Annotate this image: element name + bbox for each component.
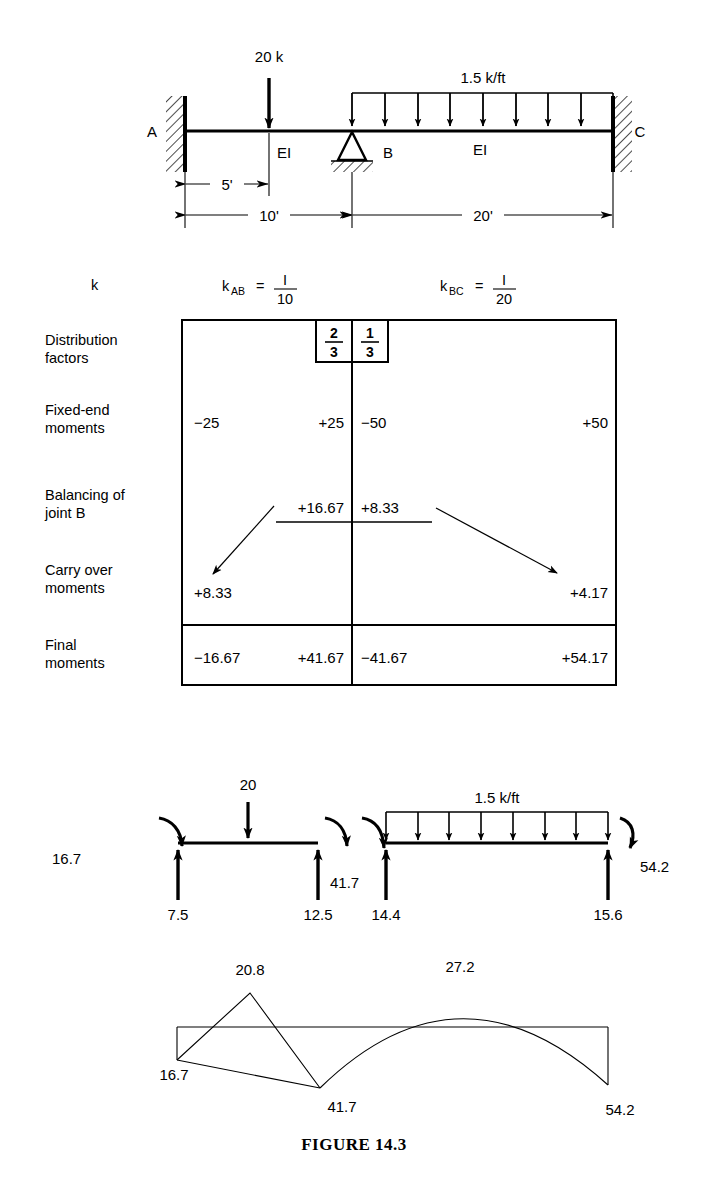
carryover-arrows xyxy=(213,506,557,574)
beam-diagram: 20 k 1.5 k/ft A B C EI EI xyxy=(147,48,646,228)
k-ab-subscript: AB xyxy=(231,285,245,297)
free-body-diagram-left: 20 16.7 41.7 7.5 12.5 xyxy=(52,776,359,923)
row-label-balancing-1: Balancing of xyxy=(45,487,126,503)
bmd-label-peak-left: 20.8 xyxy=(235,961,264,978)
fbd-right-reaction-c-label: 15.6 xyxy=(593,906,622,923)
fbd-left-moment-arrow-right xyxy=(325,818,347,846)
bmd-label-trough-mid: 41.7 xyxy=(327,1098,356,1115)
dimension-10ft: 10' xyxy=(186,206,351,224)
fbd-right-reaction-b-label: 14.4 xyxy=(371,906,400,923)
df-right-numerator: 1 xyxy=(366,325,374,341)
k-bc-equals: = xyxy=(475,278,483,294)
stiffness-row: k k AB = I 10 k BC = I 20 xyxy=(91,272,516,307)
row-label-final-1: Final xyxy=(45,637,76,653)
moment-distribution-table: 2 3 1 3 Distribution factors Fixed-end m… xyxy=(44,320,616,685)
df-left-denominator: 3 xyxy=(330,344,338,360)
dim-5ft-label: 5' xyxy=(221,176,232,193)
k-bc-name: k xyxy=(440,278,448,294)
fbd-left-point-load-label: 20 xyxy=(240,776,257,793)
fem-value-cb: +50 xyxy=(583,414,608,431)
carryover-value-ab: +8.33 xyxy=(194,584,232,601)
free-body-diagram-right: 1.5 k/ft 54.2 14.4 15.6 xyxy=(362,789,669,923)
ei-label-left: EI xyxy=(277,144,291,161)
final-value-bc: −41.67 xyxy=(361,649,407,666)
balancing-value-ba: +16.67 xyxy=(298,499,344,516)
fbd-right-load-label: 1.5 k/ft xyxy=(474,789,520,806)
fem-values: −25 +25 −50 +50 xyxy=(194,414,608,431)
fem-value-ab: −25 xyxy=(194,414,219,431)
k-ab-denominator: 10 xyxy=(277,291,293,307)
k-bc-subscript: BC xyxy=(449,285,464,297)
final-value-ab: −16.67 xyxy=(194,649,240,666)
fbd-right-moment-arrow-right xyxy=(620,818,633,848)
point-load-label: 20 k xyxy=(255,48,284,65)
final-value-cb: +54.17 xyxy=(562,649,608,666)
stiffness-k-bc: k BC = I 20 xyxy=(440,272,516,307)
row-label-fem-2: moments xyxy=(45,420,105,436)
df-right-denominator: 3 xyxy=(366,344,374,360)
node-label-c: C xyxy=(635,123,646,140)
dimension-20ft: 20' xyxy=(353,206,612,224)
dimension-5ft: 5' xyxy=(186,175,268,193)
node-label-a: A xyxy=(147,123,157,140)
distribution-factor-boxes: 2 3 1 3 xyxy=(316,320,388,362)
distributed-load-bc xyxy=(352,93,613,128)
row-label-carryover-1: Carry over xyxy=(45,562,113,578)
row-label-balancing-2: joint B xyxy=(44,505,85,521)
carryover-values: +8.33 +4.17 xyxy=(194,584,608,601)
fem-value-ba: +25 xyxy=(319,414,344,431)
node-label-b: B xyxy=(383,144,393,161)
fbd-left-moment-label: 16.7 xyxy=(52,850,81,867)
stiffness-k-ab: k AB = I 10 xyxy=(222,272,297,307)
k-bc-numerator: I xyxy=(502,272,506,288)
fbd-left-reaction-b-label: 12.5 xyxy=(303,906,332,923)
row-label-distribution-2: factors xyxy=(45,350,89,366)
bmd-span-bc-curve xyxy=(320,1019,608,1088)
final-value-ba: +41.67 xyxy=(298,649,344,666)
bending-moment-diagram: 16.7 20.8 41.7 27.2 54.2 xyxy=(159,958,634,1118)
pin-support-b xyxy=(331,132,373,172)
carryover-arrow-right xyxy=(436,508,557,573)
fbd-right-moment-right-label: 54.2 xyxy=(640,858,669,875)
bmd-label-peak-right: 27.2 xyxy=(445,958,474,975)
fbd-left-moment-right-label: 41.7 xyxy=(330,874,359,891)
table-outer-border xyxy=(182,320,616,685)
fem-value-bc: −50 xyxy=(361,414,386,431)
carryover-arrow-left xyxy=(213,506,274,574)
figure-14-3: 20 k 1.5 k/ft A B C EI EI xyxy=(0,0,709,1193)
k-ab-name: k xyxy=(222,278,230,294)
bmd-label-right-end: 54.2 xyxy=(605,1101,634,1118)
ei-label-right: EI xyxy=(473,141,487,158)
distributed-load-label: 1.5 k/ft xyxy=(460,69,506,86)
row-label-fem-1: Fixed-end xyxy=(45,402,109,418)
k-bc-denominator: 20 xyxy=(496,291,512,307)
dim-10ft-label: 10' xyxy=(259,207,279,224)
carryover-value-cb: +4.17 xyxy=(570,584,608,601)
row-label-carryover-2: moments xyxy=(45,580,105,596)
balancing-value-bc: +8.33 xyxy=(361,499,399,516)
fixed-support-c xyxy=(613,96,632,172)
figure-caption: FIGURE 14.3 xyxy=(301,1135,407,1154)
figure-canvas: 20 k 1.5 k/ft A B C EI EI xyxy=(0,0,709,1193)
fbd-right-moment-arrow-left xyxy=(362,818,384,848)
bmd-span-ab-chord xyxy=(177,1060,320,1088)
fixed-support-a xyxy=(166,96,185,172)
row-label-final-2: moments xyxy=(45,655,105,671)
final-moment-values: −16.67 +41.67 −41.67 +54.17 xyxy=(194,649,608,666)
bmd-label-left-end: 16.7 xyxy=(159,1066,188,1083)
df-left-numerator: 2 xyxy=(330,325,338,341)
fbd-left-reaction-a-label: 7.5 xyxy=(168,906,189,923)
k-ab-numerator: I xyxy=(283,272,287,288)
table-row-labels: Distribution factors Fixed-end moments B… xyxy=(44,332,126,671)
balancing-values: +16.67 +8.33 xyxy=(276,499,432,522)
k-ab-equals: = xyxy=(256,278,264,294)
row-label-distribution-1: Distribution xyxy=(45,332,118,348)
stiffness-k-label: k xyxy=(91,277,99,293)
dim-20ft-label: 20' xyxy=(473,207,493,224)
